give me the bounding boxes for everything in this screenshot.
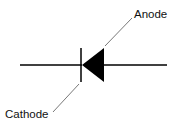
anode-label: Anode xyxy=(134,9,167,21)
anode-leader-line xyxy=(105,18,132,46)
anode-triangle xyxy=(82,48,104,82)
cathode-label: Cathode xyxy=(5,109,48,121)
cathode-leader-line xyxy=(53,84,79,112)
